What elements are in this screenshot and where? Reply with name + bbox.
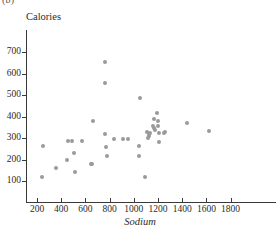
data-point <box>54 166 58 170</box>
x-tick <box>206 198 207 203</box>
data-point <box>103 132 107 136</box>
data-point <box>73 170 77 174</box>
data-point <box>41 144 45 148</box>
data-point <box>121 137 125 141</box>
y-tick-label-wrap: 200 <box>0 155 21 165</box>
y-tick <box>22 181 27 182</box>
y-tick <box>22 138 27 139</box>
data-point <box>103 60 107 64</box>
y-tick-label-wrap: 600 <box>0 69 21 79</box>
x-tick <box>158 198 159 203</box>
y-tick-label: 400 <box>0 112 21 122</box>
data-point <box>145 130 149 134</box>
y-tick <box>22 52 27 53</box>
data-point <box>156 124 160 128</box>
y-tick <box>22 117 27 118</box>
y-tick-label: 600 <box>0 69 21 79</box>
data-point <box>157 140 161 144</box>
data-point <box>126 137 130 141</box>
data-point <box>80 139 84 143</box>
x-tick-label: 1800 <box>216 204 246 214</box>
data-point <box>112 137 116 141</box>
x-tick <box>85 198 86 203</box>
y-tick-label-wrap: 700 <box>0 47 21 57</box>
y-tick <box>22 95 27 96</box>
data-point <box>155 111 159 115</box>
data-point <box>157 131 161 135</box>
y-tick <box>22 160 27 161</box>
y-tick-label-wrap: 400 <box>0 112 21 122</box>
data-point <box>138 96 142 100</box>
figure-container: (b) Calories 100200300400500600700 20040… <box>0 0 280 233</box>
x-axis-title: Sodium <box>0 216 280 227</box>
x-tick <box>37 198 38 203</box>
y-tick-label-wrap: 100 <box>0 176 21 186</box>
data-point <box>105 154 109 158</box>
data-point <box>65 158 69 162</box>
x-tick <box>110 198 111 203</box>
y-tick-label-wrap: 300 <box>0 133 21 143</box>
x-tick <box>231 198 232 203</box>
data-point <box>207 129 211 133</box>
data-point <box>156 119 160 123</box>
y-tick-label: 700 <box>0 47 21 57</box>
y-tick <box>22 74 27 75</box>
y-tick-label: 100 <box>0 176 21 186</box>
data-point <box>91 119 95 123</box>
data-point <box>70 139 74 143</box>
scatter-plot-area: 100200300400500600700 200400600800100012… <box>0 0 280 233</box>
data-point <box>185 121 189 125</box>
data-point <box>137 144 141 148</box>
x-tick <box>61 198 62 203</box>
y-tick-label: 300 <box>0 133 21 143</box>
x-tick <box>134 198 135 203</box>
x-axis-line <box>26 202 276 203</box>
data-point <box>40 175 44 179</box>
x-tick <box>182 198 183 203</box>
data-point <box>137 154 141 158</box>
data-point <box>103 81 107 85</box>
data-point <box>90 162 94 166</box>
y-tick-label: 500 <box>0 90 21 100</box>
data-point <box>146 136 150 140</box>
data-point <box>104 145 108 149</box>
y-tick-label-wrap: 500 <box>0 90 21 100</box>
data-point <box>72 151 76 155</box>
data-point <box>163 130 167 134</box>
data-point <box>143 175 147 179</box>
y-tick-label: 200 <box>0 155 21 165</box>
